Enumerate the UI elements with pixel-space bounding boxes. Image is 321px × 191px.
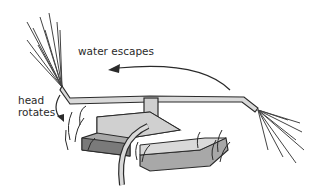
head-rotates-label-line1: head [18,94,44,106]
right-water-spray [258,110,304,163]
water-escapes-arrow [118,66,230,90]
head-rotates-arrow [56,95,60,118]
water-escapes-label: water escapes [78,45,154,57]
sprinkler-arm [60,86,258,112]
water-escapes-arrowhead [108,64,120,73]
sprinkler-diagram [0,0,321,191]
left-water-spray [27,13,62,87]
head-rotates-label-line2: rotates [18,106,55,118]
